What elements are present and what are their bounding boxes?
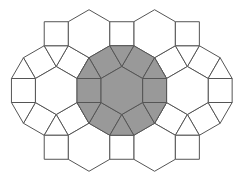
- center-ring-square: [77, 79, 101, 103]
- left-ring-square: [11, 79, 35, 103]
- right-top-square: [175, 22, 199, 46]
- tiling-diagram: [0, 0, 241, 173]
- right-ring-square: [208, 79, 232, 103]
- center-ring-square: [143, 79, 167, 103]
- center-bottom-square: [110, 135, 134, 159]
- center-top-square: [110, 22, 134, 46]
- left-bottom-square: [44, 135, 68, 159]
- left-top-square: [44, 22, 68, 46]
- shaded-dodecagon: [77, 46, 167, 136]
- right-bottom-square: [175, 135, 199, 159]
